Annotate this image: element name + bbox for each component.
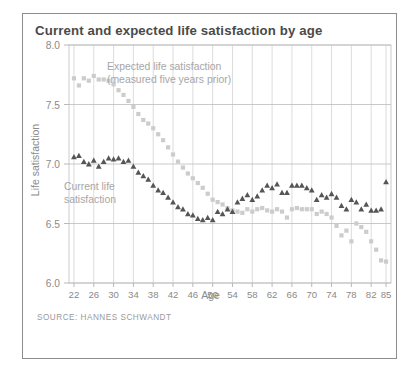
data-point bbox=[305, 207, 309, 211]
chart-figure: Current and expected life satisfaction b… bbox=[22, 13, 397, 359]
data-point bbox=[121, 93, 125, 97]
data-point bbox=[181, 165, 185, 169]
data-point bbox=[235, 210, 239, 214]
data-point bbox=[240, 211, 244, 215]
x-tick-82: 82 bbox=[366, 289, 377, 300]
data-point bbox=[102, 77, 106, 81]
x-tick-58: 58 bbox=[247, 289, 258, 300]
data-point bbox=[310, 207, 314, 211]
y-tick-7.0: 7.0 bbox=[23, 159, 60, 170]
data-point bbox=[364, 230, 368, 234]
data-point bbox=[384, 259, 388, 263]
data-point bbox=[290, 207, 294, 211]
data-point bbox=[116, 88, 120, 92]
data-point bbox=[334, 224, 338, 228]
data-point bbox=[211, 198, 215, 202]
data-point bbox=[315, 212, 319, 216]
data-point bbox=[186, 171, 190, 175]
data-point bbox=[72, 76, 76, 80]
data-point bbox=[255, 207, 259, 211]
data-point bbox=[131, 105, 135, 109]
x-tick-70: 70 bbox=[306, 289, 317, 300]
data-point bbox=[82, 76, 86, 80]
x-tick-62: 62 bbox=[267, 289, 278, 300]
data-point bbox=[141, 118, 145, 122]
data-point bbox=[325, 212, 329, 216]
data-point bbox=[349, 239, 353, 243]
x-tick-78: 78 bbox=[346, 289, 357, 300]
x-tick-46: 46 bbox=[188, 289, 199, 300]
data-point bbox=[369, 239, 373, 243]
data-point bbox=[245, 207, 249, 211]
x-tick-42: 42 bbox=[168, 289, 179, 300]
annotation-current-series: Current life satisfaction bbox=[64, 181, 116, 206]
x-tick-22: 22 bbox=[69, 289, 80, 300]
data-point bbox=[354, 221, 358, 225]
data-point bbox=[344, 229, 348, 233]
x-tick-34: 34 bbox=[128, 289, 139, 300]
x-tick-26: 26 bbox=[88, 289, 99, 300]
data-point bbox=[220, 202, 224, 206]
y-tick-8.0: 8.0 bbox=[23, 40, 60, 51]
y-tick-7.5: 7.5 bbox=[23, 99, 60, 110]
data-point bbox=[379, 258, 383, 262]
data-point bbox=[329, 215, 333, 219]
source-note: SOURCE: HANNES SCHWANDT bbox=[37, 313, 171, 322]
data-point bbox=[87, 79, 91, 83]
x-tick-54: 54 bbox=[227, 289, 238, 300]
data-point bbox=[92, 74, 96, 78]
data-point bbox=[275, 207, 279, 211]
data-point bbox=[250, 210, 254, 214]
data-point bbox=[216, 200, 220, 204]
annotation-expected-series: Expected life satisfaction (measured fiv… bbox=[107, 61, 231, 86]
data-point bbox=[171, 152, 175, 156]
data-point bbox=[285, 215, 289, 219]
x-tick-38: 38 bbox=[148, 289, 159, 300]
data-point bbox=[136, 112, 140, 116]
data-point bbox=[151, 126, 155, 130]
data-point bbox=[265, 208, 269, 212]
data-point bbox=[77, 83, 81, 87]
y-tick-6.5: 6.5 bbox=[23, 218, 60, 229]
data-point bbox=[270, 210, 274, 214]
data-point bbox=[300, 207, 304, 211]
x-tick-30: 30 bbox=[108, 289, 119, 300]
data-point bbox=[191, 176, 195, 180]
data-point bbox=[156, 132, 160, 136]
data-point bbox=[295, 206, 299, 210]
data-point bbox=[260, 206, 264, 210]
y-tick-6.0: 6.0 bbox=[23, 278, 60, 289]
x-tick-85: 85 bbox=[381, 289, 392, 300]
data-point bbox=[126, 99, 130, 103]
data-point bbox=[280, 210, 284, 214]
data-point bbox=[339, 233, 343, 237]
data-point bbox=[196, 181, 200, 185]
data-point bbox=[166, 145, 170, 149]
data-point bbox=[161, 138, 165, 142]
x-tick-50: 50 bbox=[207, 289, 218, 300]
x-tick-66: 66 bbox=[287, 289, 298, 300]
x-tick-74: 74 bbox=[326, 289, 337, 300]
data-point bbox=[176, 160, 180, 164]
data-point bbox=[146, 121, 150, 125]
data-point bbox=[374, 248, 378, 252]
data-point bbox=[206, 192, 210, 196]
data-point bbox=[320, 210, 324, 214]
data-point bbox=[201, 186, 205, 190]
data-point bbox=[97, 77, 101, 81]
data-point bbox=[359, 225, 363, 229]
plot-area: Age Life satisfaction 222630343842465054… bbox=[23, 14, 398, 360]
